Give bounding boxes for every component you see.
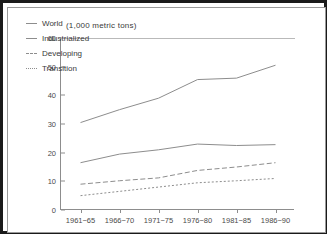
- x-axis-tick-label: 1976−80: [183, 216, 212, 225]
- legend-item-world[interactable]: World: [26, 16, 89, 31]
- x-axis-tick-label: 1961−65: [66, 216, 95, 225]
- x-axis-tick-label: 1981−85: [222, 216, 251, 225]
- legend-line-swatch-icon: [26, 51, 37, 57]
- series-line-transition: [81, 178, 276, 195]
- legend-item-industrialized[interactable]: Industrialized: [26, 31, 89, 46]
- series-line-industrialized: [81, 144, 276, 163]
- y-axis-tick-label: 40: [34, 91, 56, 100]
- legend-line-swatch-icon: [26, 66, 37, 72]
- figure-inner-border: (1,000 metric tons) 0102030405060 1961−6…: [7, 7, 326, 233]
- series-lines: [61, 38, 295, 210]
- series-line-world: [81, 65, 276, 122]
- y-axis-tick-label: 10: [34, 177, 56, 186]
- x-axis-tick-label: 1966−70: [105, 216, 134, 225]
- legend-line-swatch-icon: [26, 36, 37, 42]
- image-outer-border: (1,000 metric tons) 0102030405060 1961−6…: [0, 0, 327, 234]
- x-axis-tick-label: 1986−90: [261, 216, 290, 225]
- legend-item-label: Developing: [42, 49, 82, 58]
- legend-item-label: World: [42, 19, 63, 28]
- series-line-developing: [81, 163, 276, 185]
- legend-line-swatch-icon: [26, 21, 37, 27]
- y-axis-tick-label: 30: [34, 120, 56, 129]
- legend-item-label: Transition: [42, 64, 77, 73]
- chart-figure: (1,000 metric tons) 0102030405060 1961−6…: [8, 8, 327, 234]
- y-axis-tick-label: 20: [34, 148, 56, 157]
- y-axis-tick-label: 0: [34, 206, 56, 215]
- legend-item-transition[interactable]: Transition: [26, 61, 89, 76]
- legend: WorldIndustrializedDevelopingTransition: [26, 16, 89, 76]
- legend-item-label: Industrialized: [42, 34, 89, 43]
- plot-area: 0102030405060 1961−651966−701971−751976−…: [60, 38, 294, 210]
- x-axis-tick-label: 1971−75: [144, 216, 173, 225]
- legend-item-developing[interactable]: Developing: [26, 46, 89, 61]
